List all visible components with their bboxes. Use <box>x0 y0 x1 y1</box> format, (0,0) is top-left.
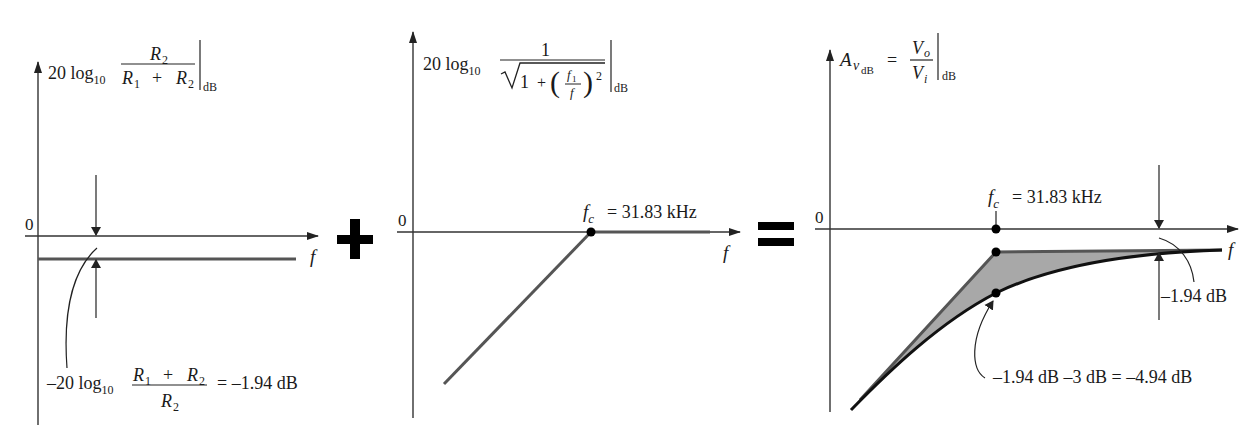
zero-label: 0 <box>25 215 34 234</box>
svg-text:1: 1 <box>520 72 529 92</box>
leader-line-offset <box>1159 238 1194 282</box>
svg-text:1: 1 <box>134 77 140 91</box>
svg-text:A: A <box>838 49 852 70</box>
svg-text:=: = <box>887 50 897 70</box>
svg-text:f: f <box>570 85 576 100</box>
svg-text:1: 1 <box>541 40 550 60</box>
svg-text:+: + <box>152 68 162 88</box>
fc-label: fc <box>988 186 999 211</box>
plus-operator <box>337 219 373 259</box>
svg-text:–20 log10: –20 log10 <box>46 373 114 397</box>
equals-operator <box>758 222 794 246</box>
y-axis-label: 20 log10 1 1 + ( f 1 f ) 2 dB <box>423 40 628 100</box>
svg-text:2: 2 <box>188 77 194 91</box>
svg-text:R: R <box>175 68 187 88</box>
svg-text:+: + <box>537 74 546 91</box>
x-axis-label: f <box>1228 239 1236 260</box>
svg-text:dB: dB <box>942 69 956 83</box>
svg-text:20 log10: 20 log10 <box>423 54 481 78</box>
asymptote-corner-point <box>992 248 1001 257</box>
y-axis-label: 20 log10 R 2 R 1 + R 2 dB <box>48 40 217 94</box>
corner-point <box>587 228 596 237</box>
svg-text:= 31.83 kHz: = 31.83 kHz <box>607 202 697 222</box>
svg-text:2: 2 <box>199 374 205 388</box>
svg-text:R: R <box>121 68 133 88</box>
svg-text:+: + <box>163 365 173 385</box>
attenuation-annotation: –20 log10 R 1 + R 2 R 2 = –1.94 dB <box>46 365 298 414</box>
point-label: –1.94 dB –3 dB = –4.94 dB <box>992 367 1192 387</box>
zero-label: 0 <box>815 208 824 227</box>
leader-line <box>66 248 97 368</box>
svg-text:2: 2 <box>596 69 602 83</box>
svg-text:2: 2 <box>173 400 179 414</box>
svg-text:i: i <box>924 72 927 86</box>
svg-text:1: 1 <box>572 74 577 84</box>
svg-text:R: R <box>160 391 172 411</box>
svg-text:= 31.83 kHz: = 31.83 kHz <box>1012 187 1102 207</box>
svg-text:R: R <box>132 365 144 385</box>
svg-text:o: o <box>924 46 930 60</box>
x-axis-label: f <box>723 242 731 263</box>
offset-label: –1.94 dB <box>1160 286 1227 306</box>
svg-text:R: R <box>186 365 198 385</box>
fc-label: fc <box>583 201 594 226</box>
leader-line-point <box>975 301 993 378</box>
panel-divider: 0 f 20 log10 R 2 R 1 + R 2 dB –20 log10 … <box>25 40 318 425</box>
bode-diagram: 0 f 20 log10 R 2 R 1 + R 2 dB –20 log10 … <box>0 0 1258 441</box>
rolloff-asymptote <box>444 232 591 384</box>
svg-text:1: 1 <box>145 374 151 388</box>
svg-text:= –1.94 dB: = –1.94 dB <box>217 373 298 393</box>
svg-text:20 log10: 20 log10 <box>48 63 106 87</box>
svg-text:): ) <box>583 65 593 99</box>
panel-total: 0 f A v dB = V o V i dB fc = 31.83 kHz <box>815 33 1238 412</box>
y-axis-label: A v dB = V o V i dB <box>838 33 956 86</box>
svg-text:R: R <box>149 44 161 64</box>
fc-axis-point <box>992 225 1001 234</box>
svg-text:dB: dB <box>614 81 628 95</box>
minus3db-point <box>992 289 1001 298</box>
x-axis-label: f <box>310 246 318 267</box>
svg-text:dB: dB <box>861 64 874 76</box>
zero-label: 0 <box>398 211 407 230</box>
svg-text:2: 2 <box>162 53 168 67</box>
svg-text:(: ( <box>550 65 560 99</box>
panel-highpass: 0 f 20 log10 1 1 + ( f 1 f ) 2 dB fc = 3… <box>397 32 740 418</box>
svg-text:dB: dB <box>203 80 217 94</box>
svg-text:v: v <box>853 58 860 73</box>
